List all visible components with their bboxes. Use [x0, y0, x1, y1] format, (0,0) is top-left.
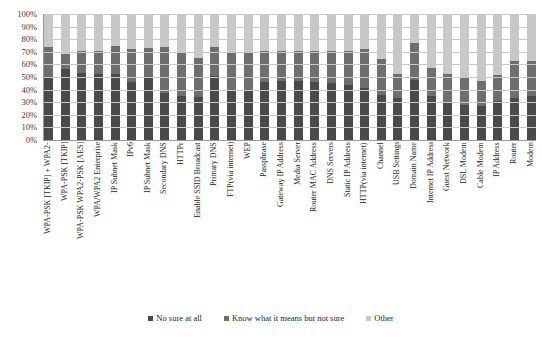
- legend-swatch-icon: [148, 316, 153, 321]
- legend-item: Other: [366, 314, 393, 323]
- bar-segment-other: [244, 14, 253, 53]
- gridline: [44, 39, 536, 40]
- bar-segment-other: [393, 14, 402, 74]
- x-axis-label: IP Subnet Mask: [143, 142, 152, 297]
- bar-segment-other: [210, 14, 219, 47]
- bar-segment-other: [427, 14, 436, 68]
- bar-segment-no-sure: [327, 83, 336, 140]
- bar-segment-know: [94, 51, 103, 75]
- bar-segment-no-sure: [260, 82, 269, 140]
- x-axis-label: WPA-PSK [TKIP]: [60, 142, 69, 297]
- bar-segment-other: [527, 14, 536, 61]
- x-axis-label: WPA/WPA2 Enterprise: [93, 142, 102, 297]
- x-axis-label: Enable SSID Broadcast: [193, 142, 202, 297]
- legend-swatch-icon: [224, 316, 229, 321]
- y-axis-tick: 70%: [21, 48, 37, 57]
- bar-segment-know: [460, 77, 469, 105]
- x-axis-label: Cable Modem: [476, 142, 485, 297]
- x-axis-label: Media Server: [293, 142, 302, 297]
- bar-segment-other: [160, 14, 169, 47]
- x-axis-label: DSL Modem: [459, 142, 468, 297]
- bar-segment-other: [327, 14, 336, 51]
- bar-segment-other: [493, 14, 502, 74]
- x-axis-label: Passphrase: [259, 142, 268, 297]
- bar-segment-know: [344, 51, 353, 85]
- x-axis-label: WPA-PSK [TKIP] + WPA2-: [43, 142, 52, 297]
- bar-segment-no-sure: [144, 78, 153, 140]
- gridline: [44, 64, 536, 65]
- bar-segment-other: [460, 14, 469, 77]
- bar-segment-other: [77, 14, 86, 51]
- bar-segment-know: [410, 43, 419, 80]
- legend-label: No sure at all: [156, 314, 202, 323]
- bar-segment-know: [227, 53, 236, 90]
- bar-segment-other: [310, 14, 319, 51]
- x-axis-label: Modem: [526, 142, 535, 297]
- bar-segment-other: [360, 14, 369, 49]
- y-axis-tick: 90%: [21, 23, 37, 32]
- bar-segment-know: [77, 51, 86, 74]
- bar-segment-know: [443, 74, 452, 102]
- bar-segment-other: [144, 14, 153, 48]
- gridline: [44, 127, 536, 128]
- bar-segment-other: [510, 14, 519, 61]
- y-axis-tick: 0%: [26, 136, 37, 145]
- bar-segment-other: [344, 14, 353, 51]
- bar-segment-know: [61, 54, 70, 69]
- bar-segment-know: [111, 46, 120, 75]
- plot-wrapper: 0%10%20%30%40%50%60%70%80%90%100% WPA-PS…: [0, 0, 542, 300]
- bar-segment-no-sure: [443, 102, 452, 140]
- legend-item: No sure at all: [148, 314, 202, 323]
- bar-segment-know: [493, 75, 502, 101]
- gridline: [44, 77, 536, 78]
- bar-segment-no-sure: [127, 82, 136, 140]
- bar-segment-know: [160, 47, 169, 94]
- y-axis-tick: 80%: [21, 35, 37, 44]
- gridline: [44, 14, 536, 15]
- bar-segment-other: [294, 14, 303, 51]
- x-axis-label: DNS Servers: [326, 142, 335, 297]
- x-axis-label: Router MAC Address: [309, 142, 318, 297]
- bar-segment-other: [443, 14, 452, 74]
- bar-segment-no-sure: [160, 93, 169, 140]
- bar-segment-no-sure: [344, 85, 353, 140]
- bar-segment-other: [94, 14, 103, 51]
- x-axis-label: IP Address: [492, 142, 501, 297]
- x-axis-label: Primary DNS: [209, 142, 218, 297]
- x-axis-label: WEP: [243, 142, 252, 297]
- bar-segment-other: [111, 14, 120, 46]
- y-axis-tick: 60%: [21, 60, 37, 69]
- bar-segment-other: [277, 14, 286, 51]
- y-axis: 0%10%20%30%40%50%60%70%80%90%100%: [0, 8, 40, 140]
- gridline: [44, 90, 536, 91]
- y-axis-tick: 10%: [21, 123, 37, 132]
- bar-segment-no-sure: [94, 74, 103, 140]
- bar-segment-no-sure: [44, 77, 53, 140]
- bar-segment-other: [260, 14, 269, 51]
- x-axis-label: HTTPr: [176, 142, 185, 297]
- gridline: [44, 52, 536, 53]
- legend-swatch-icon: [366, 316, 371, 321]
- bar-segment-other: [477, 14, 486, 81]
- x-axis-label: Router: [509, 142, 518, 297]
- bar-segment-know: [360, 49, 369, 88]
- bar-segment-other: [61, 14, 70, 54]
- bar-segment-no-sure: [493, 101, 502, 140]
- x-axis-label: USB Settings: [392, 142, 401, 297]
- y-axis-tick: 30%: [21, 98, 37, 107]
- x-axis-label: FTP(via internet): [226, 142, 235, 297]
- bar-segment-no-sure: [210, 76, 219, 140]
- x-axis-label: IPv6: [126, 142, 135, 297]
- bar-segment-know: [510, 61, 519, 99]
- gridline: [44, 102, 536, 103]
- chart-legend: No sure at allKnow what it means but not…: [0, 308, 542, 328]
- legend-label: Know what it means but not sure: [232, 314, 344, 323]
- x-axis-label: Guest Network: [442, 142, 451, 297]
- bar-segment-know: [427, 68, 436, 96]
- legend-label: Other: [374, 314, 393, 323]
- x-axis-labels: WPA-PSK [TKIP] + WPA2-WPA-PSK [TKIP]WPA-…: [43, 142, 535, 297]
- y-axis-tick: 20%: [21, 111, 37, 120]
- bar-segment-no-sure: [310, 82, 319, 140]
- bar-segment-know: [527, 61, 536, 96]
- y-axis-tick: 40%: [21, 86, 37, 95]
